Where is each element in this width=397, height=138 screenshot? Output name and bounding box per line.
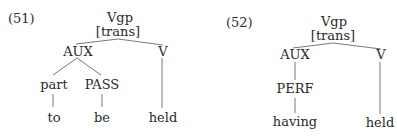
branch-aux-pass-51 <box>77 58 101 75</box>
node-feature-trans: [trans] <box>96 25 140 39</box>
branch-aux-part-51 <box>53 58 77 75</box>
node-v: V <box>158 45 167 59</box>
node-pass: PASS <box>85 78 120 92</box>
node-v: V <box>376 48 385 62</box>
leaf-having: having <box>273 115 317 129</box>
leaf-held: held <box>366 116 395 130</box>
leaf-held: held <box>149 111 178 125</box>
node-vgp: Vgp <box>107 11 133 25</box>
node-part: part <box>40 78 68 92</box>
node-vgp: Vgp <box>321 15 347 29</box>
leaf-to: to <box>47 111 60 125</box>
branch-vgp-v-52 <box>333 43 381 49</box>
node-aux: AUX <box>280 48 310 62</box>
node-feature-trans: [trans] <box>311 29 355 43</box>
branch-vgp-v-51 <box>118 39 163 45</box>
example-number: (52) <box>226 16 253 30</box>
node-perf: PERF <box>276 82 313 96</box>
node-aux: AUX <box>63 45 93 59</box>
example-number: (51) <box>8 12 35 26</box>
leaf-be: be <box>94 111 110 125</box>
